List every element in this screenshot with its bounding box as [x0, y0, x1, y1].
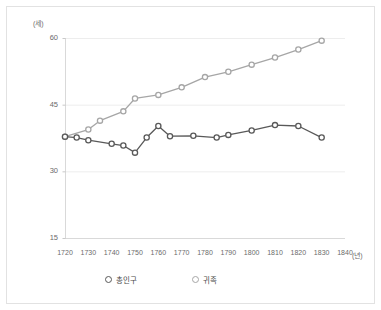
- data-point: [167, 134, 172, 139]
- y-axis-tick-label: 45: [32, 100, 58, 109]
- data-point: [272, 123, 277, 128]
- data-point: [214, 135, 219, 140]
- data-point: [86, 138, 91, 143]
- series-line: [65, 41, 322, 137]
- y-axis-unit-label: (세): [33, 18, 44, 28]
- data-point: [296, 47, 301, 52]
- data-point: [319, 38, 324, 43]
- data-point: [121, 143, 126, 148]
- y-axis-tick-label: 15: [32, 233, 58, 242]
- y-axis-tick-label: 60: [32, 33, 58, 42]
- legend-label: 귀족: [203, 274, 217, 285]
- y-axis-tick-label: 30: [32, 166, 58, 175]
- x-axis-tick-label: 1840: [328, 249, 362, 256]
- data-point: [296, 123, 301, 128]
- data-point: [86, 127, 91, 132]
- series-total-population: [62, 123, 324, 156]
- grid-lines: [65, 39, 345, 239]
- data-point: [191, 133, 196, 138]
- data-point: [249, 62, 254, 67]
- data-point: [226, 132, 231, 137]
- data-point: [97, 118, 102, 123]
- data-point: [109, 141, 114, 146]
- chart-figure: (세) (년) 15304560 17201730174017501760177…: [0, 0, 381, 310]
- legend-marker-circle-icon: [192, 276, 199, 283]
- chart-plot-area: [0, 0, 381, 310]
- data-point: [272, 55, 277, 60]
- data-point: [226, 69, 231, 74]
- data-point: [179, 85, 184, 90]
- data-point: [74, 135, 79, 140]
- legend-marker-circle-icon: [105, 276, 112, 283]
- legend-item-total-population[interactable]: 총인구: [105, 274, 137, 285]
- data-point: [132, 96, 137, 101]
- data-point: [144, 135, 149, 140]
- data-point: [202, 75, 207, 80]
- data-point: [62, 134, 67, 139]
- data-point: [249, 128, 254, 133]
- data-point: [156, 123, 161, 128]
- series-nobility: [62, 38, 324, 139]
- legend-item-nobility[interactable]: 귀족: [192, 274, 217, 285]
- data-point: [121, 109, 126, 114]
- legend-label: 총인구: [116, 274, 137, 285]
- data-point: [319, 135, 324, 140]
- data-point: [156, 92, 161, 97]
- data-point: [132, 150, 137, 155]
